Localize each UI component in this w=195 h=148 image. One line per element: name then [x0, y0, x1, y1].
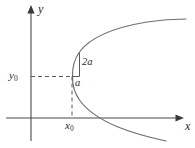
parabola-lower-branch — [72, 76, 166, 141]
y-axis-label: y — [38, 3, 43, 15]
x0-label: x0 — [65, 120, 74, 132]
x-axis-arrow-icon — [176, 114, 185, 121]
y-axis-arrow-icon — [27, 5, 34, 14]
x-axis-label: x — [185, 120, 190, 132]
y0-label: y0 — [9, 70, 18, 82]
two-a-label: 2a — [82, 57, 93, 68]
a-label: a — [75, 78, 80, 89]
x0-subscript: 0 — [70, 124, 74, 133]
y0-subscript: 0 — [14, 74, 18, 83]
figure-canvas — [0, 0, 195, 148]
parabola-figure: y x y0 x0 2a a — [0, 0, 195, 148]
